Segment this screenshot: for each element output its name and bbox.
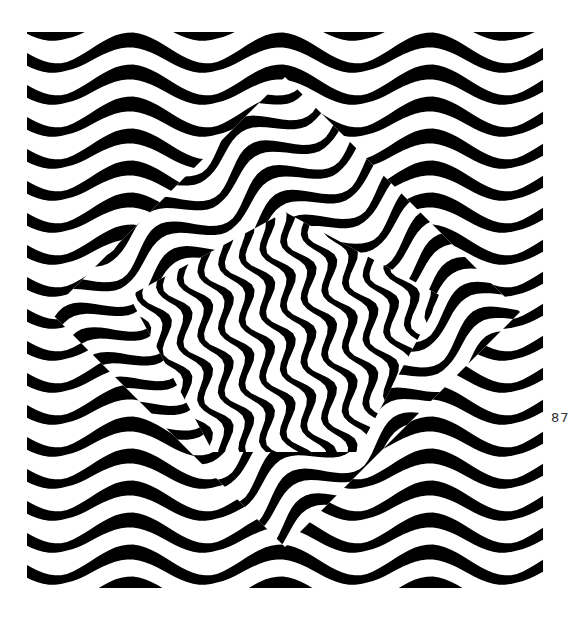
page-number: 87 <box>551 410 570 425</box>
op-art-artwork <box>27 32 543 588</box>
wave-pattern-graphic <box>27 32 543 588</box>
